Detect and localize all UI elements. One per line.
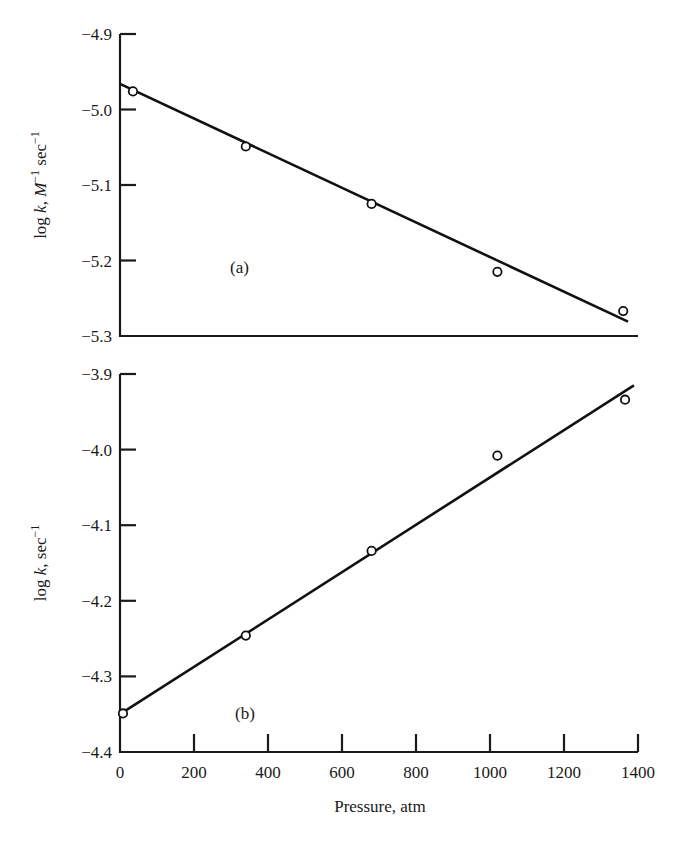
data-point (242, 631, 250, 639)
ylabel-a-sup1: −1 (28, 170, 42, 183)
ylabel-a-sec: sec (31, 143, 50, 169)
data-point (493, 268, 501, 276)
y-tick-label: −3.9 (81, 365, 112, 384)
ylabel-a-sup2: −1 (28, 131, 42, 144)
y-tick-label: −5.1 (81, 176, 112, 195)
x-tick-label: 800 (403, 763, 429, 782)
x-tick-label: 200 (181, 763, 207, 782)
panel-b: −3.9−4.0−4.1−4.2−4.3−4.40200400600800100… (81, 365, 655, 782)
x-tick-label: 1200 (547, 763, 581, 782)
x-tick-label: 600 (329, 763, 355, 782)
panel-label-b: (b) (235, 704, 255, 723)
x-tick-label: 1400 (621, 763, 655, 782)
ylabel-a-sep: , (31, 197, 50, 206)
y-tick-label: −4.1 (81, 516, 112, 535)
axis-lines (120, 374, 638, 752)
fit-line (120, 385, 634, 714)
x-axis-title: Pressure, atm (334, 797, 426, 816)
panel-label-a: (a) (230, 258, 249, 277)
y-tick-label: −5.0 (81, 101, 112, 120)
ylabel-a-M: M (31, 182, 50, 198)
y-tick-label: −4.0 (81, 441, 112, 460)
y-tick-label: −4.4 (81, 743, 112, 762)
panel-a: −4.9−5.0−5.1−5.2−5.3 (81, 25, 638, 346)
y-axis-title-b: log k, sec−1 (28, 525, 50, 602)
data-point (621, 396, 629, 404)
ylabel-a-log: log (31, 213, 50, 239)
data-point (129, 87, 137, 95)
ylabel-b-log: log (31, 575, 50, 601)
x-tick-label: 0 (116, 763, 125, 782)
chart-figure: −4.9−5.0−5.1−5.2−5.3 −3.9−4.0−4.1−4.2−4.… (0, 0, 681, 842)
x-tick-label: 1000 (473, 763, 507, 782)
y-tick-label: −4.2 (81, 592, 112, 611)
y-tick-label: −5.2 (81, 252, 112, 271)
data-point (367, 200, 375, 208)
ylabel-b-sep: , sec (31, 537, 50, 568)
data-point (367, 547, 375, 555)
data-point (119, 709, 127, 717)
x-tick-label: 400 (255, 763, 281, 782)
y-tick-label: −5.3 (81, 327, 112, 346)
data-point (493, 451, 501, 459)
data-point (242, 142, 250, 150)
y-tick-label: −4.9 (81, 25, 112, 44)
ylabel-b-sup: −1 (28, 525, 42, 538)
y-axis-title-a: log k, M−1 sec−1 (28, 131, 50, 239)
data-point (619, 307, 627, 315)
y-tick-label: −4.3 (81, 667, 112, 686)
